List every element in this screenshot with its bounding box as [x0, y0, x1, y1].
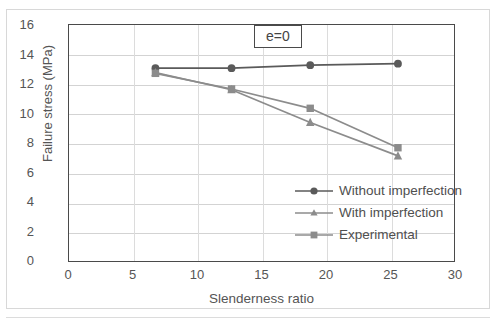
y-tick-label: 10 [4, 107, 34, 120]
chart-figure: 16 14 12 10 8 6 4 2 0 0 5 10 15 20 25 30… [0, 0, 496, 326]
data-series [151, 68, 402, 159]
legend: Without imperfection With imperfection [290, 178, 466, 248]
legend-item-with-imperfection[interactable]: With imperfection [294, 202, 462, 224]
data-point-square [394, 144, 401, 151]
data-point-square [228, 85, 235, 92]
annotation-text: e=0 [266, 28, 290, 44]
annotation-e-equals-zero: e=0 [254, 25, 302, 48]
legend-label: Without imperfection [339, 184, 462, 198]
x-tick-label: 30 [435, 268, 475, 281]
x-tick-label: 5 [113, 268, 153, 281]
plot-area: Without imperfection With imperfection [68, 24, 455, 262]
y-tick-label: 4 [4, 195, 34, 208]
data-series [152, 60, 402, 72]
x-tick-label: 20 [306, 268, 346, 281]
legend-label: With imperfection [339, 206, 443, 220]
legend-marker-triangle-icon [294, 206, 334, 220]
data-series [152, 70, 402, 152]
x-axis-title: Slenderness ratio [68, 291, 455, 306]
legend-marker-square-icon [294, 228, 334, 242]
series-line [155, 73, 398, 147]
y-tick-label: 14 [4, 48, 34, 61]
data-point-square [152, 70, 159, 77]
x-tick-label: 0 [48, 268, 88, 281]
legend-item-without-imperfection[interactable]: Without imperfection [294, 180, 462, 202]
x-tick-label: 25 [371, 268, 411, 281]
x-tick-label: 15 [242, 268, 282, 281]
data-point-circle [228, 64, 236, 72]
data-point-circle [394, 60, 402, 68]
y-axis-title: Failure stress (MPa) [40, 19, 55, 189]
data-point-circle [306, 61, 314, 69]
series-line [155, 64, 398, 68]
y-tick-label: 8 [4, 136, 34, 149]
series-line [155, 73, 398, 156]
legend-item-experimental[interactable]: Experimental [294, 224, 462, 246]
y-tick-label: 12 [4, 77, 34, 90]
x-tick-label: 10 [177, 268, 217, 281]
y-tick-label: 0 [4, 254, 34, 267]
data-point-square [307, 105, 314, 112]
y-tick-label: 6 [4, 166, 34, 179]
y-tick-label: 2 [4, 225, 34, 238]
legend-label: Experimental [339, 228, 418, 242]
y-tick-label: 16 [4, 18, 34, 31]
legend-marker-circle-icon [294, 184, 334, 198]
